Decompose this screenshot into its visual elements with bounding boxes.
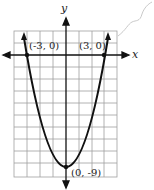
point-left-intercept — [25, 53, 29, 57]
left-intercept-label: (-3, 0) — [29, 41, 59, 51]
point-right-intercept — [102, 53, 106, 57]
point-vertex — [64, 165, 68, 169]
decorative-scribble — [118, 2, 152, 36]
curve-arrow-left — [21, 32, 27, 40]
x-axis-label: x — [132, 49, 138, 60]
vertex-label: (0, -9) — [71, 168, 101, 178]
y-axis-label: y — [61, 3, 67, 14]
curve-arrow-right — [105, 32, 111, 40]
parabola-graph — [0, 0, 154, 190]
right-intercept-label: (3, 0) — [79, 41, 106, 51]
